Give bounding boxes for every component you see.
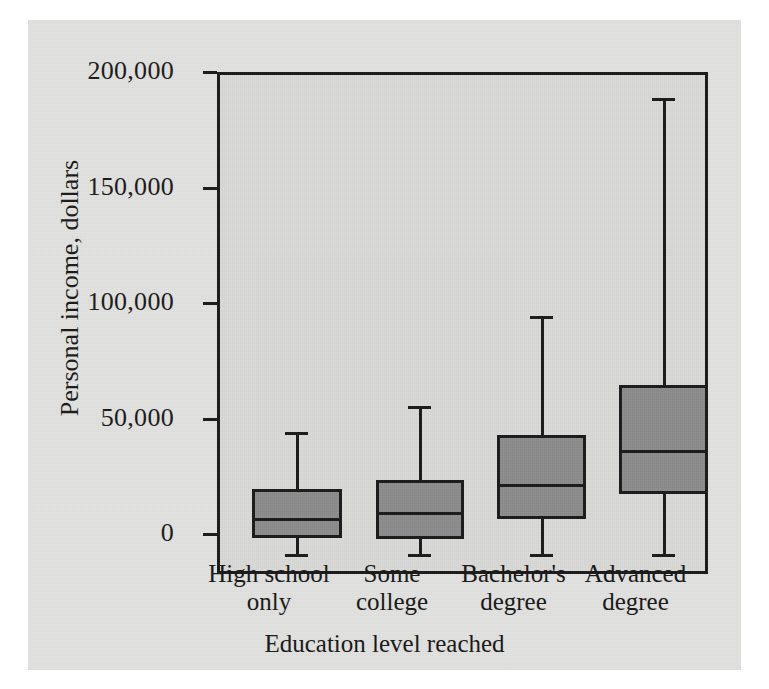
interquartile-box [252,489,342,538]
upper-whisker [296,432,299,490]
y-axis-tick [203,71,217,74]
lower-whisker-cap [408,554,431,557]
y-axis-tick [203,302,217,305]
upper-whisker-cap [408,406,431,409]
upper-whisker [541,316,544,435]
upper-whisker-cap [652,98,675,101]
x-axis-tick-label-line: Advanced [546,560,726,588]
x-axis-tick-label: Advanceddegree [546,560,726,616]
lower-whisker-cap [530,554,553,557]
upper-whisker-cap [530,316,553,319]
upper-whisker [663,98,666,386]
lower-whisker [663,494,666,554]
y-axis-tick [203,187,217,190]
median-line [252,518,342,521]
plot-area [217,72,708,574]
median-line [497,484,586,487]
interquartile-box [376,480,464,539]
y-axis-tick-label: 50,000 [5,405,174,431]
median-line [619,450,708,453]
lower-whisker-cap [652,554,675,557]
y-axis-title: Personal income, dollars [55,78,85,498]
y-axis-tick [203,418,217,421]
figure-page: Personal income, dollars 050,000100,0001… [0,0,769,689]
lower-whisker [419,539,422,554]
y-axis-tick-label: 200,000 [5,58,174,84]
median-line [376,512,464,515]
y-axis-tick-label: 150,000 [5,174,174,200]
x-axis-title: Education level reached [0,630,769,658]
y-axis-tick [203,533,217,536]
upper-whisker [419,406,422,480]
y-axis-tick-label: 100,000 [5,289,174,315]
lower-whisker-cap [285,554,308,557]
x-axis-tick-label-line: degree [546,588,726,616]
upper-whisker-cap [285,432,308,435]
lower-whisker [296,538,299,554]
lower-whisker [541,519,544,554]
interquartile-box [497,435,586,519]
interquartile-box [619,385,708,494]
y-axis-tick-label: 0 [5,520,174,546]
